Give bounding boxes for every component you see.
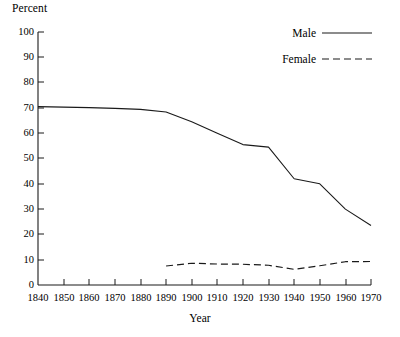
chart-canvas	[0, 0, 400, 337]
series-line-male	[38, 107, 371, 226]
line-chart: Percent Year 100 90 80 70 60 50 40 30 20…	[0, 0, 400, 337]
x-axis-ticks	[64, 279, 371, 285]
y-axis-ticks	[38, 32, 44, 260]
series-line-female	[166, 261, 371, 269]
